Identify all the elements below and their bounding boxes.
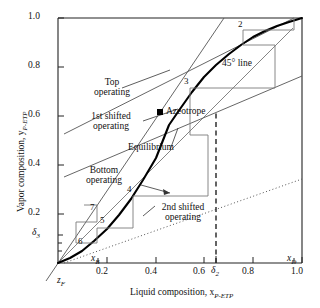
forty-five-degree-line bbox=[58, 28, 293, 263]
y-tick-label-0.2: 0.2 bbox=[28, 208, 40, 218]
stage-number-7: 7 bbox=[90, 203, 95, 212]
x-axis-title-subscript: P-ETP bbox=[214, 292, 233, 300]
delta3-subscript: 3 bbox=[36, 232, 40, 240]
mccabe-thiele-figure: 1.0 0.8 0.6 0.4 0.2 δ3 0.2 0.4 0.6 0.8 1… bbox=[0, 0, 320, 308]
stage-number-5: 5 bbox=[100, 216, 105, 225]
x-mark-xD: xD bbox=[287, 254, 296, 266]
xD-subscript: D bbox=[291, 258, 296, 266]
y-tick-label-1.0: 1.0 bbox=[28, 12, 40, 22]
stage-number-3: 3 bbox=[184, 77, 189, 86]
x-axis-title-text: Liquid composition, x bbox=[130, 287, 214, 297]
label-first-shifted-line2: operating bbox=[78, 122, 144, 132]
label-azeotrope: Azeotrope bbox=[166, 107, 206, 117]
y-axis-title-text: Vapor composition, y bbox=[16, 130, 26, 212]
x-mark-zF: zF bbox=[57, 276, 65, 288]
label-equilibrium: Equilibrium bbox=[128, 143, 174, 153]
plot-canvas bbox=[0, 0, 320, 308]
y-tick-label-0.8: 0.8 bbox=[28, 61, 40, 71]
y-axis-title-subscript: P-ETP bbox=[21, 111, 29, 130]
delta2-subscript: 2 bbox=[215, 270, 219, 278]
x-mark-delta2: δ2 bbox=[211, 266, 219, 278]
x-tick-label-0.6: 0.6 bbox=[193, 267, 205, 277]
label-45-degree-line: 45° line bbox=[222, 59, 252, 69]
x-mark-xB: xB bbox=[91, 254, 100, 266]
x-axis-ticks bbox=[107, 257, 302, 263]
y-tick-label-0.4: 0.4 bbox=[28, 159, 40, 169]
label-top-operating-line2: operating bbox=[86, 88, 138, 98]
x-tick-label-0.8: 0.8 bbox=[242, 267, 254, 277]
xB-subscript: B bbox=[95, 258, 99, 266]
x-tick-label-0.2: 0.2 bbox=[96, 267, 108, 277]
label-top-operating: Top operating bbox=[86, 78, 138, 98]
x-tick-label-0.4: 0.4 bbox=[145, 267, 157, 277]
stage-number-6: 6 bbox=[78, 237, 83, 246]
label-bottom-operating: Bottom operating bbox=[68, 166, 140, 186]
y-tick-label-0.6: 0.6 bbox=[28, 110, 40, 120]
label-second-shifted-line2: operating bbox=[152, 213, 214, 223]
label-second-shifted-operating: 2nd shifted operating bbox=[152, 203, 214, 223]
y-axis-ticks bbox=[58, 18, 64, 214]
x-axis-title: Liquid composition, xP-ETP bbox=[130, 288, 233, 300]
y-axis-title: Vapor composition, yP-ETP bbox=[16, 111, 29, 212]
label-first-shifted-operating: 1st shifted operating bbox=[78, 112, 144, 132]
stage-number-4: 4 bbox=[127, 185, 132, 194]
azeotrope-marker bbox=[157, 109, 163, 115]
x-tick-label-1.0: 1.0 bbox=[291, 267, 303, 277]
leader-arrow-bottom bbox=[163, 189, 170, 195]
stage-number-2: 2 bbox=[238, 20, 243, 29]
y-mark-delta3: δ3 bbox=[32, 228, 40, 240]
zF-subscript: F bbox=[61, 280, 65, 288]
